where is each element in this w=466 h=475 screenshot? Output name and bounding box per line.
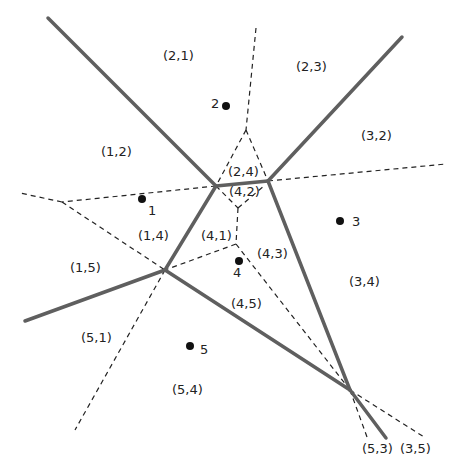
site-label: 2 [211, 96, 219, 111]
region-label: (5,1) [81, 330, 112, 345]
site-label: 5 [200, 342, 208, 357]
region-label: (1,2) [101, 144, 132, 159]
region-label: (2,4) [228, 164, 259, 179]
site-point [235, 257, 243, 265]
site-label: 4 [233, 265, 241, 280]
site-label: 1 [148, 203, 156, 218]
site-point [336, 217, 344, 225]
region-label: (4,1) [201, 228, 232, 243]
region-label: (2,1) [163, 48, 194, 63]
region-label: (4,3) [257, 246, 288, 261]
site-label: 3 [352, 214, 360, 229]
site-point [222, 102, 230, 110]
region-label: (5,4) [172, 382, 203, 397]
site-point [186, 342, 194, 350]
region-label: (3,5) [400, 441, 431, 456]
region-label: (3,2) [361, 128, 392, 143]
background [0, 0, 466, 475]
voronoi-diagram: 12345 (2,1)(2,3)(1,2)(3,2)(2,4)(4,2)(1,4… [0, 0, 466, 475]
region-label: (4,5) [231, 296, 262, 311]
region-label: (1,5) [70, 260, 101, 275]
region-label: (2,3) [296, 59, 327, 74]
region-label: (4,2) [229, 184, 260, 199]
region-label: (3,4) [349, 274, 380, 289]
region-label: (5,3) [362, 441, 393, 456]
site-point [138, 195, 146, 203]
region-label: (1,4) [138, 228, 169, 243]
